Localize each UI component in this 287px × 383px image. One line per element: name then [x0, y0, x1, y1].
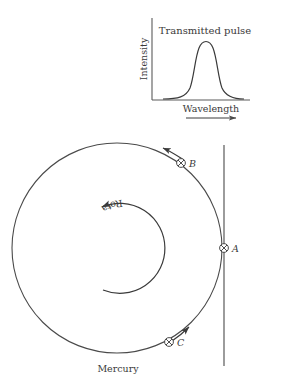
mercury-caption: Mercury [97, 363, 139, 374]
transmitted-pulse-curve [163, 42, 244, 100]
chart-title: Transmitted pulse [159, 25, 251, 36]
chart-y-axis-label: Intensity [138, 37, 149, 80]
rotation-label: Rotation [0, 0, 123, 215]
marker-b-label: B [188, 158, 196, 169]
mercury-radar-figure: Transmitted pulse Intensity Wavelength R… [0, 0, 287, 383]
marker-a: A [220, 243, 239, 254]
inset-chart: Transmitted pulse Intensity Wavelength [138, 18, 251, 118]
marker-a-label: A [231, 243, 239, 254]
marker-b: B [177, 158, 196, 169]
mercury-disc-outline [12, 143, 222, 353]
orbit-diagram: Rotation B A C Mercury [0, 0, 239, 374]
marker-c-label: C [177, 337, 185, 348]
marker-c: C [165, 337, 185, 348]
rotation-arc-arrow-icon [102, 203, 165, 293]
chart-x-axis-label: Wavelength [183, 103, 239, 114]
